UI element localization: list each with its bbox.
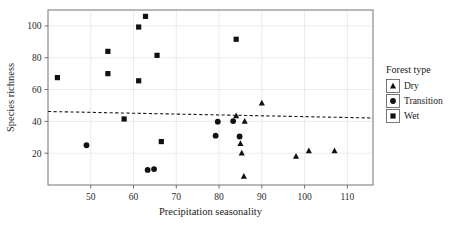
data-point-triangle (306, 147, 312, 153)
legend-entry-wet[interactable]: Wet (387, 110, 420, 123)
gridlines (48, 10, 373, 185)
y-axis: 20406080100 (27, 21, 48, 158)
legend-entry-dry[interactable]: Dry (387, 80, 420, 93)
data-point-triangle (242, 118, 248, 124)
plot-frame (48, 10, 373, 185)
legend-label-wet: Wet (404, 111, 419, 121)
x-tick-label: 100 (297, 192, 312, 202)
y-tick-label: 20 (32, 149, 42, 159)
series-wet (55, 14, 239, 144)
data-point-square (154, 53, 159, 58)
x-tick-label: 110 (340, 192, 354, 202)
data-point-square (143, 14, 148, 19)
series-transition (84, 118, 243, 173)
data-point-triangle (293, 153, 299, 159)
data-point-circle (237, 134, 243, 140)
trendline (48, 112, 373, 119)
y-tick-label: 40 (32, 117, 42, 127)
x-tick-label: 90 (257, 192, 267, 202)
x-tick-label: 50 (86, 192, 96, 202)
data-point-square (159, 139, 164, 144)
y-tick-label: 100 (27, 21, 42, 31)
data-point-circle (145, 167, 151, 173)
data-point-circle (84, 142, 90, 148)
x-axis: 5060708090100110 (86, 185, 355, 202)
legend-marker-square (390, 113, 395, 118)
scatter-plot: 506070809010011020406080100Precipitation… (0, 0, 458, 227)
y-axis-title: Species richness (5, 63, 16, 132)
data-point-square (105, 71, 110, 76)
legend-marker-circle (390, 98, 396, 104)
data-point-square (136, 78, 141, 83)
data-point-circle (151, 166, 157, 172)
legend-label-dry: Dry (404, 81, 419, 91)
y-tick-label: 60 (32, 85, 42, 95)
data-point-square (55, 75, 60, 80)
data-point-square (136, 24, 141, 29)
data-point-triangle (239, 150, 245, 156)
data-point-triangle (237, 140, 243, 146)
x-axis-title: Precipitation seasonality (159, 206, 263, 217)
data-point-circle (230, 118, 236, 124)
x-tick-label: 70 (172, 192, 182, 202)
chart-figure: 506070809010011020406080100Precipitation… (0, 0, 458, 227)
legend-title: Forest type (386, 64, 431, 75)
legend: Forest typeDryTransitionWet (386, 64, 443, 123)
data-point-triangle (331, 147, 337, 153)
data-point-triangle (241, 173, 247, 179)
data-point-triangle (259, 100, 265, 106)
data-point-circle (213, 133, 219, 139)
data-point-square (122, 116, 127, 121)
data-point-square (105, 49, 110, 54)
series-dry (233, 100, 337, 179)
x-tick-label: 60 (129, 192, 139, 202)
legend-entry-transition[interactable]: Transition (387, 95, 443, 108)
data-point-circle (215, 119, 221, 125)
legend-label-transition: Transition (404, 96, 443, 106)
data-point-square (234, 37, 239, 42)
x-tick-label: 80 (214, 192, 224, 202)
y-tick-label: 80 (32, 53, 42, 63)
